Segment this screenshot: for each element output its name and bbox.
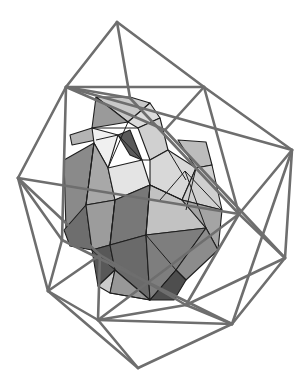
polyhedron-figure — [0, 0, 308, 385]
diagram-canvas — [0, 0, 308, 385]
